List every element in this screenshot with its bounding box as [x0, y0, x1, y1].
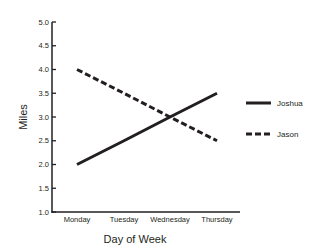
x-tick-label: Wednesday: [150, 215, 190, 224]
y-tick-label: 1.0: [39, 208, 49, 217]
y-tick-label: 1.5: [39, 184, 49, 193]
y-tick-label: 4.5: [39, 41, 49, 50]
y-tick-label: 3.0: [39, 113, 49, 122]
x-tick-label: Tuesday: [110, 215, 139, 224]
x-tick-label: Thursday: [201, 215, 233, 224]
y-tick-label: 2.0: [39, 160, 49, 169]
y-axis: 1.01.52.02.53.03.54.04.55.0: [39, 18, 56, 217]
y-tick-label: 2.5: [39, 136, 49, 145]
legend-label-joshua: Joshua: [277, 99, 303, 108]
line-chart: 1.01.52.02.53.03.54.04.55.0 MondayTuesda…: [0, 0, 316, 250]
y-tick-label: 4.0: [39, 65, 49, 74]
series-lines: [77, 70, 217, 165]
x-axis: MondayTuesdayWednesdayThursday: [51, 212, 240, 224]
y-tick-label: 3.5: [39, 89, 49, 98]
y-tick-label: 5.0: [39, 18, 49, 27]
y-axis-title: Miles: [17, 104, 29, 130]
legend: JoshuaJason: [246, 99, 303, 139]
x-tick-label: Monday: [64, 215, 91, 224]
legend-label-jason: Jason: [277, 130, 298, 139]
x-axis-title: Day of Week: [104, 233, 167, 245]
